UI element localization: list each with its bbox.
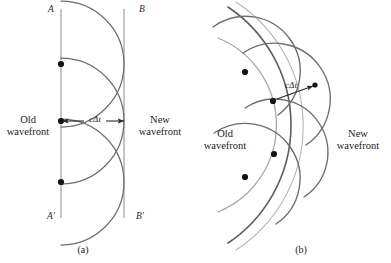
old-wavefront-arc-b <box>218 38 276 212</box>
new-wavefront-label-a-line1: New <box>129 114 191 126</box>
source-point-b-3 <box>271 151 277 157</box>
source-point-b-4 <box>242 174 248 180</box>
distance-label-b: cΔt <box>277 80 305 90</box>
huygens-principle-figure: A B A′ B′ Old wavefront New wavefront cΔ… <box>0 0 391 263</box>
new-wavefront-construction-arc-b <box>236 2 303 250</box>
panel-b-group <box>213 2 330 250</box>
new-wavefront-label-b: New wavefront <box>327 128 389 152</box>
old-wavefront-label-a: Old wavefront <box>0 114 56 138</box>
label-A: A <box>40 4 62 15</box>
old-wavefront-label-a-line1: Old <box>0 114 56 126</box>
wavelet-arc-a-1 <box>61 1 124 127</box>
source-point-a-1 <box>58 61 64 67</box>
label-A-prime: A′ <box>40 211 62 222</box>
label-B: B <box>131 4 153 15</box>
old-wavefront-label-b-line2: wavefront <box>194 140 256 152</box>
source-point-b-1 <box>242 69 248 75</box>
old-wavefront-label-a-line2: wavefront <box>0 126 56 138</box>
source-point-b-2 <box>270 98 276 104</box>
source-point-a-3 <box>58 179 64 185</box>
old-wavefront-label-b-line1: Old <box>194 128 256 140</box>
new-wavefront-label-b-line2: wavefront <box>327 140 389 152</box>
panel-a-caption: (a) <box>70 244 96 256</box>
new-wavefront-label-a-line2: wavefront <box>129 126 191 138</box>
panel-b-caption: (b) <box>288 244 314 256</box>
distance-label-a: cΔt <box>83 114 107 124</box>
new-wavefront-label-b-line1: New <box>327 128 389 140</box>
new-wavefront-label-a: New wavefront <box>129 114 191 138</box>
old-wavefront-label-b: Old wavefront <box>194 128 256 152</box>
wavelet-arc-a-3 <box>61 119 124 245</box>
new-wavefront-point-b <box>312 82 317 87</box>
label-B-prime: B′ <box>129 211 151 222</box>
